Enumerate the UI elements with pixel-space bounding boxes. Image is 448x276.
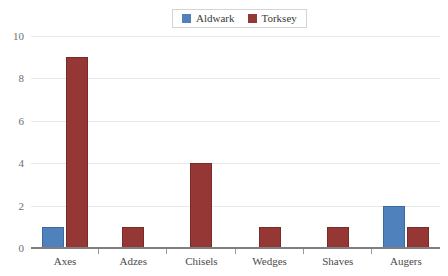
y-axis-tick-0: 0 [0, 243, 24, 254]
legend-label-aldwark: Aldwark [196, 13, 235, 24]
bar-group-shaves [304, 36, 372, 248]
bar-group-axes [31, 36, 99, 248]
x-axis-label-adzes: Adzes [99, 255, 167, 267]
x-axis-label-augers: Augers [372, 255, 440, 267]
y-axis-tick-6: 6 [0, 116, 24, 127]
bar-chart: Aldwark Torksey 10 8 6 4 2 0 [0, 0, 448, 276]
bar-group-adzes [99, 36, 167, 248]
bar-torksey-chisels[interactable] [190, 163, 212, 248]
bar-aldwark-axes[interactable] [42, 227, 64, 248]
legend-entry-aldwark[interactable]: Aldwark [182, 13, 235, 24]
y-axis-tick-8: 8 [0, 73, 24, 84]
bar-torksey-adzes[interactable] [122, 227, 144, 248]
x-tick-augers [372, 249, 440, 254]
y-axis-tick-2: 2 [0, 201, 24, 212]
bar-torksey-wedges[interactable] [259, 227, 281, 248]
legend-entry-torksey[interactable]: Torksey [248, 13, 297, 24]
legend-swatch-torksey [248, 14, 257, 23]
x-tick-axes [31, 249, 99, 254]
x-axis-label-axes: Axes [31, 255, 99, 267]
x-axis-label-shaves: Shaves [304, 255, 372, 267]
x-axis-labels: Axes Adzes Chisels Wedges Shaves Augers [31, 255, 440, 267]
x-tick-adzes [99, 249, 167, 254]
x-tick-chisels [167, 249, 235, 254]
y-axis-tick-10: 10 [0, 31, 24, 42]
x-axis-ticks [31, 249, 440, 254]
y-axis-tick-4: 4 [0, 158, 24, 169]
bar-aldwark-augers[interactable] [383, 206, 405, 248]
x-tick-shaves [304, 249, 372, 254]
bar-group-augers [372, 36, 440, 248]
legend-swatch-aldwark [182, 14, 191, 23]
bar-torksey-axes[interactable] [66, 57, 88, 248]
x-tick-wedges [236, 249, 304, 254]
bar-groups [31, 36, 440, 248]
bar-group-chisels [167, 36, 235, 248]
bar-torksey-shaves[interactable] [327, 227, 349, 248]
chart-legend: Aldwark Torksey [172, 9, 307, 28]
legend-label-torksey: Torksey [262, 13, 297, 24]
bar-torksey-augers[interactable] [407, 227, 429, 248]
bar-group-wedges [236, 36, 304, 248]
x-axis-label-wedges: Wedges [236, 255, 304, 267]
x-axis-label-chisels: Chisels [167, 255, 235, 267]
